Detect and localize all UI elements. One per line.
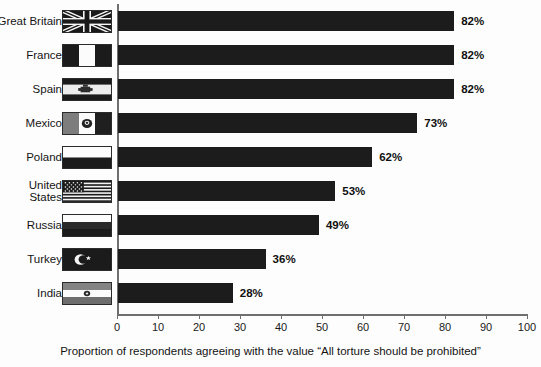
x-tick	[240, 314, 241, 319]
bar	[118, 113, 417, 133]
x-tick-label: 40	[275, 321, 287, 333]
x-tick-label: 10	[152, 321, 164, 333]
flag-mexico-icon	[62, 112, 112, 135]
bar-value-label: 62%	[379, 147, 402, 167]
bar	[118, 249, 266, 269]
x-tick	[117, 314, 118, 319]
country-label: Turkey	[0, 242, 62, 276]
flag-united-states-icon	[62, 180, 112, 203]
x-tick	[158, 314, 159, 319]
flag-poland-icon	[62, 146, 112, 169]
x-tick	[322, 314, 323, 319]
x-axis-caption: Proportion of respondents agreeing with …	[0, 345, 541, 357]
country-label: Poland	[0, 140, 62, 174]
x-tick	[445, 314, 446, 319]
bar-value-label: 49%	[326, 215, 349, 235]
bar	[118, 11, 454, 31]
x-tick-label: 60	[357, 321, 369, 333]
flag-spain-icon	[62, 78, 112, 101]
x-tick	[527, 314, 528, 319]
country-label: Mexico	[0, 106, 62, 140]
x-tick-label: 50	[316, 321, 328, 333]
bar-value-label: 82%	[461, 79, 484, 99]
flag-france-icon	[62, 44, 112, 67]
x-tick	[199, 314, 200, 319]
country-label: India	[0, 276, 62, 310]
bar	[118, 283, 233, 303]
plot-area: 82%82%82%73%62%53%49%36%28% 010203040506…	[117, 0, 541, 367]
flag-india-icon	[62, 282, 112, 305]
x-tick-label: 0	[114, 321, 120, 333]
bar	[118, 147, 372, 167]
bar	[118, 45, 454, 65]
bar	[118, 181, 335, 201]
country-label: France	[0, 38, 62, 72]
x-tick-label: 30	[234, 321, 246, 333]
flag-russia-icon	[62, 214, 112, 237]
x-tick-label: 20	[193, 321, 205, 333]
bar-value-label: 73%	[424, 113, 447, 133]
flag-turkey-icon	[62, 248, 112, 271]
x-tick	[363, 314, 364, 319]
x-tick	[281, 314, 282, 319]
bar-value-label: 53%	[342, 181, 365, 201]
bar-value-label: 28%	[240, 283, 263, 303]
country-label: Spain	[0, 72, 62, 106]
x-tick-label: 100	[518, 321, 536, 333]
country-label: United States	[0, 174, 62, 208]
bar-value-label: 82%	[461, 45, 484, 65]
x-tick	[404, 314, 405, 319]
bar	[118, 215, 319, 235]
x-tick-label: 70	[398, 321, 410, 333]
bar-value-label: 82%	[461, 11, 484, 31]
flag-great-britain-icon	[62, 10, 112, 33]
bar	[118, 79, 454, 99]
x-tick-label: 80	[439, 321, 451, 333]
bar-value-label: 36%	[273, 249, 296, 269]
bar-chart: Great Britain France Spain Mexico	[0, 0, 541, 367]
x-tick-label: 90	[480, 321, 492, 333]
country-label: Great Britain	[0, 4, 62, 38]
x-tick	[486, 314, 487, 319]
country-label: Russia	[0, 208, 62, 242]
